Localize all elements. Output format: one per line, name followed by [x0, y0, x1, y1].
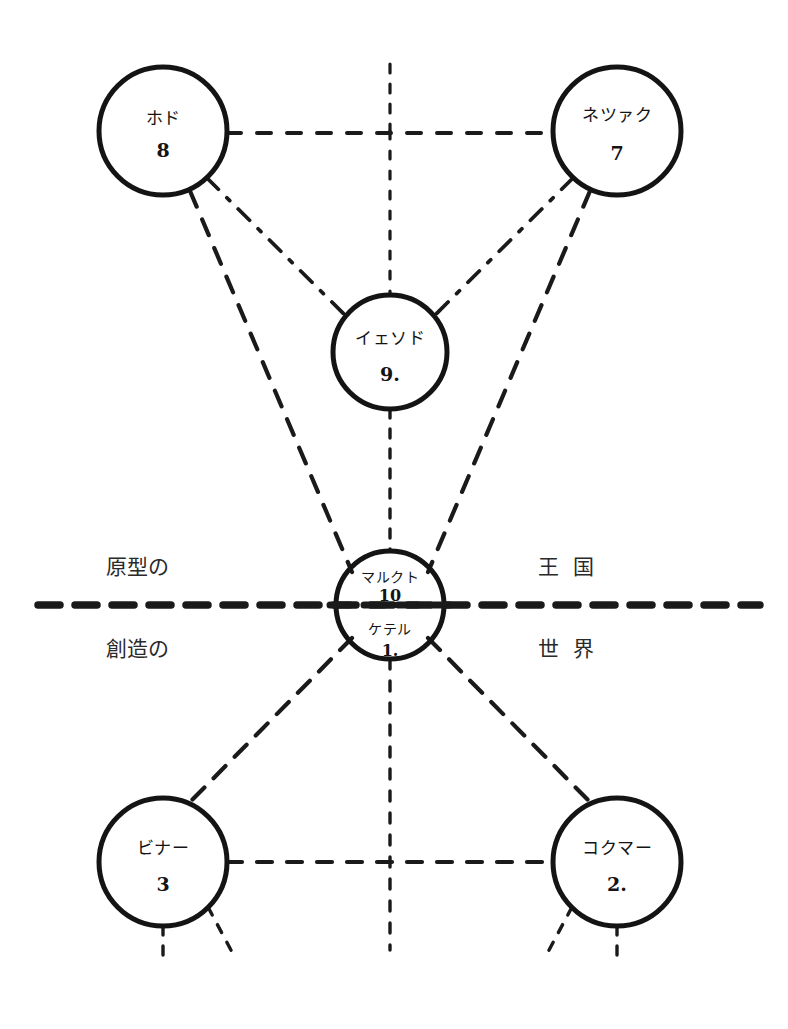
node-circle-hod[interactable]: [99, 67, 227, 195]
node-circle-netzach[interactable]: [553, 67, 681, 195]
stub-binah-diagonal: [208, 907, 232, 952]
node-circle-chokmah[interactable]: [553, 798, 681, 926]
sephiroth-tree-svg: [0, 0, 788, 1029]
edge-center-binah: [190, 638, 352, 802]
stub-chokmah-diagonal: [548, 907, 572, 952]
edge-netzach-yesod: [433, 178, 573, 317]
edge-netzach-center: [428, 191, 590, 572]
node-circle-binah[interactable]: [99, 798, 227, 926]
edge-center-chokmah: [428, 638, 590, 802]
edge-hod-center: [190, 191, 352, 572]
diagram-canvas: ホド 8 ネツァク 7 イェソド 9. マルクト 10 ケテル 1. ビナー 3…: [0, 0, 788, 1029]
edge-hod-yesod: [207, 178, 347, 317]
node-circle-yesod[interactable]: [333, 295, 447, 409]
